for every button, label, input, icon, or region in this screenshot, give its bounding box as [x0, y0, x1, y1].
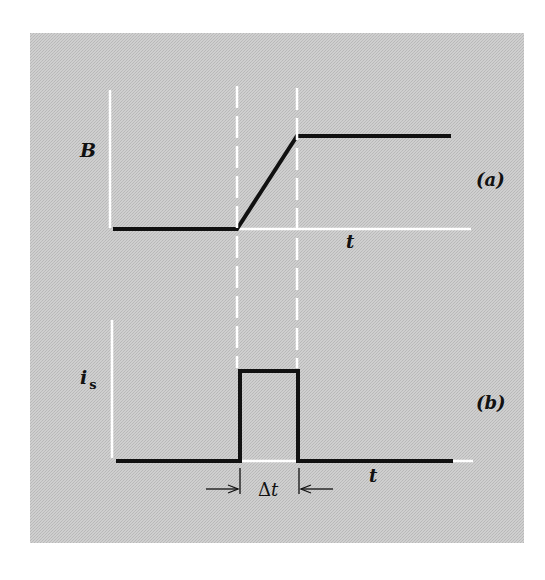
- panel-b-y-label-subscript: s: [89, 377, 96, 392]
- panel-b-x-label: t: [369, 467, 377, 485]
- panel-a-caption: (a): [476, 171, 505, 189]
- panel-b-y-label-main: i: [80, 366, 87, 388]
- delta-t-variable: t: [271, 479, 278, 500]
- delta-t-label: Δt: [258, 481, 278, 499]
- panel-b-caption: (b): [476, 394, 506, 412]
- panel-a-x-label: t: [346, 233, 354, 251]
- delta-symbol: Δ: [258, 479, 271, 500]
- magnetic-field-and-current-diagram: B t (a) is t (b) Δt: [0, 0, 545, 580]
- panel-background: [30, 33, 524, 543]
- panel-a-y-label: B: [80, 141, 96, 160]
- panel-b-y-label: is: [80, 368, 95, 387]
